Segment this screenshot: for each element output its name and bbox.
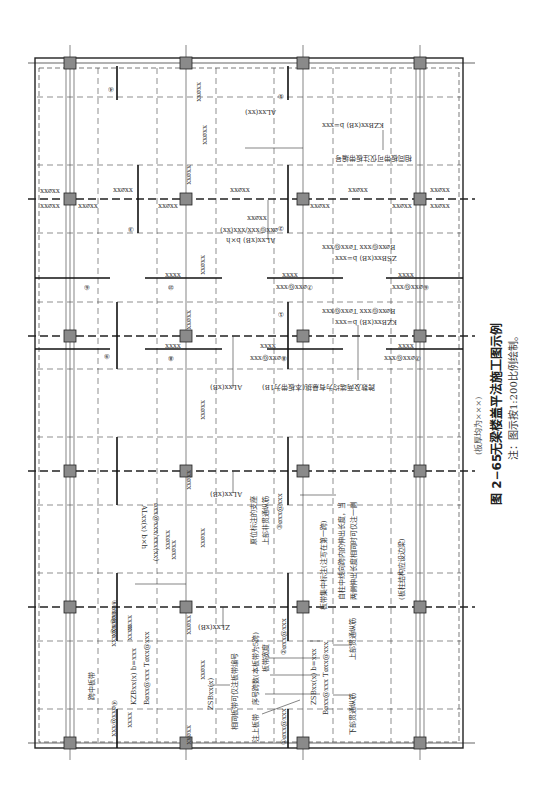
label-len-vert: xxxx xyxy=(126,625,134,641)
label-rebar-1: ①⌀xx@xxx xyxy=(280,708,288,745)
label-rebar-8: ⑧⌀xx@xxx xyxy=(250,354,287,362)
label-support-note-1: 原位标注的支座 xyxy=(250,496,258,545)
label-rebar-short: xx⌀xx xyxy=(40,187,60,195)
label-ZSB-lower: ZSBxx(x) b=xxx xyxy=(310,648,318,705)
label-rebar-vert: xx⌀xx xyxy=(185,165,193,185)
label-circle-10: ⑩ xyxy=(168,283,174,291)
label-circle-4-top: ④ xyxy=(108,85,114,93)
label-KZB-upper: KZBxx(xB) b=xxx xyxy=(335,318,397,326)
label-rebar-vert: xx⌀xx xyxy=(164,530,172,550)
label-rebar-6: ⑥⌀xx@xxx xyxy=(392,283,429,291)
label-rebar-vert: xx⌀xx xyxy=(199,528,207,548)
label-rebar-short: xx⌀xx xyxy=(113,186,133,194)
label-support-note-2: 上部非贯通纵筋 xyxy=(262,496,270,545)
label-rebar-short: xx⌀xx xyxy=(247,214,267,222)
label-rebar-vert: xx⌀xx xyxy=(199,660,207,680)
label-len: xxxx xyxy=(165,271,181,279)
label-rebar-vert: xx⌀xx xyxy=(185,470,193,490)
label-rebar-vert: xx⌀xx xyxy=(185,725,193,745)
label-rebar-vert: xx⌀xx xyxy=(185,310,193,330)
label-rebar-5: ⑤⌀xx@xxx xyxy=(110,610,118,647)
label-AL-4: ALxx(xB) xyxy=(210,383,242,391)
label-circle-8: ⑧ xyxy=(168,354,174,362)
label-KZB-upper-rebar: B⌀xx@xxx T⌀xx@xxx xyxy=(322,307,396,315)
label-KZB-lower: KZBxx(x) b=xxx xyxy=(130,648,138,705)
label-rebar-short: xx⌀xx xyxy=(78,202,98,210)
label-extend-1: 自柱中线向跨内的伸出长度，当 xyxy=(338,502,346,600)
label-AL-5: ALxx(xB) xyxy=(210,490,242,498)
label-AL-1: ALxx(xx) xyxy=(245,108,276,116)
label-len: xxxx xyxy=(282,271,298,279)
label-rebar-vert: xx⌀xx xyxy=(185,615,193,635)
label-len: xxxx xyxy=(398,271,414,279)
figure-subtitle: (板厚均为×××) xyxy=(472,397,483,455)
label-rebar-short: xx⌀xx xyxy=(430,186,450,194)
label-circle-3: ③ xyxy=(128,225,134,233)
label-rebar-short: xx⌀xx xyxy=(392,202,412,210)
label-strip-width: 板带宽度 xyxy=(262,644,270,672)
figure-number: 图 2−65 xyxy=(487,454,504,505)
label-ZSB-lower-rebar: B⌀xx@xxx T⌀xx@xxx xyxy=(322,641,330,715)
label-rebar-3: ③⌀xx@xxx xyxy=(276,493,284,530)
label-upper-strip: 注上板带 xyxy=(252,714,260,742)
label-strip-mid-note: 板带集中标注(注写在第一跨) xyxy=(320,521,328,610)
label-rebar-short: xx⌀xx xyxy=(230,186,250,194)
support-rebars xyxy=(35,66,463,748)
label-AL-2: ALxx(xB) b×h xyxy=(226,236,275,244)
label-ZSB-upper: ZSBxx(xB) b=xxx xyxy=(335,254,397,262)
label-rebar-short: xx⌀xx xyxy=(158,202,178,210)
label-AL-3: ALxx(x) b×h xyxy=(140,505,148,549)
figure-note: 注：图示按1:200比例绘制。 xyxy=(505,331,520,460)
column-axis-lines xyxy=(66,45,424,760)
label-span-same: 跨数及两端均为有悬挑(本板带为1B) xyxy=(262,383,375,391)
label-KZB-top: KZBxx(xB) b=xxx xyxy=(322,121,384,129)
label-same-strip: 相同板带可仅注板带编号 xyxy=(231,653,239,730)
label-same-strip-top: 相同板带可仅注板带编号 xyxy=(335,154,412,162)
label-seq-span: 序号跨数(本板带为5跨) xyxy=(252,632,260,705)
label-rebar-vert: xx⌀xx xyxy=(201,125,209,145)
flat-slab-plan-drawing xyxy=(0,0,547,791)
figure-title: 无梁楼盖平法施工图示例 xyxy=(487,323,504,455)
label-circle-6: ⑥ xyxy=(84,283,90,291)
label-circle-7-9: ⑨ xyxy=(104,352,110,360)
label-rebar-short: xx⌀xx xyxy=(430,202,450,210)
label-extend-2: 两侧伸出长度相同时可仅注一侧 xyxy=(350,502,358,600)
label-bottom-through: 下部贯通纵筋 xyxy=(349,693,357,735)
label-circle-2: ② xyxy=(278,224,284,232)
label-ZSB-mid: ZSBxx(x) xyxy=(207,678,215,710)
label-rebar-2: ②⌀xx@xxx xyxy=(280,618,288,655)
label-len: xxxx xyxy=(165,342,181,350)
label-ZSB-upper-rebar: B⌀xx@xxx T⌀xx@xxx xyxy=(322,243,396,251)
label-rebar-short: xx⌀xx xyxy=(348,186,368,194)
label-rebar-short: xx⌀xx xyxy=(310,202,330,210)
label-AL-3-rebar: ⌀xx@xxx/xxx(xx) xyxy=(152,503,160,561)
label-rebar-4: ④⌀xx@xxx xyxy=(110,700,118,737)
label-top-through: 上部贯通纵筋 xyxy=(349,618,357,660)
label-rebar-vert: xx⌀xx xyxy=(195,82,203,102)
label-KZB-lower-rebar: B⌀xx@xxx T⌀xx@xxx xyxy=(143,631,151,705)
label-edge-beam: (板柱结构应设边梁) xyxy=(398,539,406,600)
label-len: xxxx xyxy=(260,342,276,350)
label-ZL: ZLxx(xB) xyxy=(198,623,230,631)
label-len: xxxx xyxy=(398,342,414,350)
label-len-vert: xxxx xyxy=(126,712,134,728)
label-rebar-short: xx⌀xx xyxy=(40,202,60,210)
label-mid-strip: 跨中板带 xyxy=(88,672,96,700)
label-circle-1-top: ① xyxy=(278,92,284,100)
label-rebar-vert: xx⌀xx xyxy=(199,400,207,420)
label-rebar-vert: xx⌀xx xyxy=(199,255,207,275)
label-circle-1-mid: ① xyxy=(278,310,284,318)
label-AL-2-rebar: ⌀xx@xxx/xxx(xx) xyxy=(220,226,278,234)
label-rebar-7b: ⑦⌀xx@xxx xyxy=(384,354,421,362)
label-rebar-7: ⑦⌀xx@xxx xyxy=(276,283,313,291)
